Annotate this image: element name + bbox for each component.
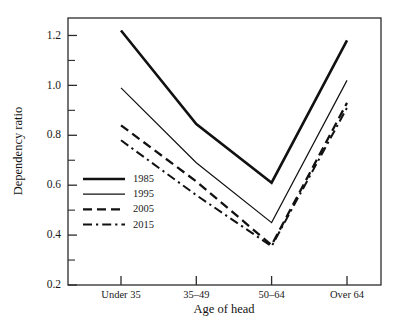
x-tick-label: Under 35 bbox=[101, 289, 140, 300]
legend-label-1995: 1995 bbox=[133, 188, 154, 199]
chart-background bbox=[0, 0, 400, 320]
x-tick-label: 35–49 bbox=[183, 289, 209, 300]
y-axis-title: Dependency ratio bbox=[11, 107, 25, 196]
y-tick-label: 1.0 bbox=[47, 79, 62, 91]
x-tick-label: Over 64 bbox=[330, 289, 365, 300]
line-chart: 0.20.40.60.81.01.2 Under 3535–4950–64Ove… bbox=[0, 0, 400, 320]
legend-label-2015: 2015 bbox=[133, 219, 154, 230]
x-axis-title: Age of head bbox=[193, 302, 255, 316]
x-tick-label: 50–64 bbox=[258, 289, 285, 300]
y-tick-label: 1.2 bbox=[47, 29, 62, 41]
y-tick-label: 0.2 bbox=[47, 278, 62, 290]
legend-label-1985: 1985 bbox=[133, 173, 154, 184]
y-tick-label: 0.6 bbox=[47, 178, 62, 190]
y-tick-label: 0.8 bbox=[47, 128, 62, 140]
legend-label-2005: 2005 bbox=[133, 203, 154, 214]
y-tick-label: 0.4 bbox=[47, 228, 62, 240]
chart-figure: 0.20.40.60.81.01.2 Under 3535–4950–64Ove… bbox=[0, 0, 400, 320]
